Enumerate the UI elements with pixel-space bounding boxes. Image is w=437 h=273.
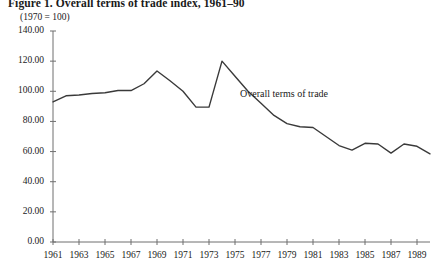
y-axis-tick-label: 140.00 xyxy=(0,25,44,35)
figure-container: Figure 1. Overall terms of trade index, … xyxy=(0,0,437,273)
y-axis-tick-label: 120.00 xyxy=(0,55,44,65)
chart-axes xyxy=(53,31,430,242)
y-axis-tick-label: 80.00 xyxy=(0,115,44,125)
x-axis-tick-label: 1989 xyxy=(402,250,432,260)
y-axis-tick-label: 100.00 xyxy=(0,85,44,95)
line-chart-plot xyxy=(0,0,437,273)
y-axis-tick-label: 20.00 xyxy=(0,206,44,216)
data-series-group xyxy=(53,61,430,154)
series-annotation-label: Overall terms of trade xyxy=(240,88,328,99)
y-axis-tick-label: 40.00 xyxy=(0,176,44,186)
y-axis-tick-label: 60.00 xyxy=(0,146,44,156)
y-axis-tick-label: 0.00 xyxy=(0,236,44,246)
series-line-overall-terms-of-trade xyxy=(53,61,430,154)
